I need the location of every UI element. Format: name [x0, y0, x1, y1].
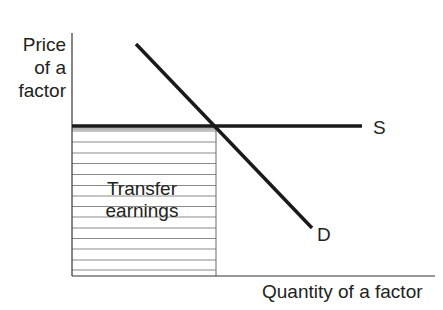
transfer-earnings-label-line: earnings — [82, 200, 202, 222]
transfer-earnings-label-line: Transfer — [82, 178, 202, 200]
transfer-earnings-label: Transfer earnings — [82, 178, 202, 222]
y-axis-label-line: factor — [0, 79, 66, 102]
y-axis-label-line: of a — [0, 56, 66, 79]
demand-label: D — [317, 223, 331, 246]
y-axis-label-line: Price — [0, 33, 66, 56]
supply-shadow-band — [72, 128, 216, 131]
y-axis-label: Price of a factor — [0, 33, 66, 102]
x-axis-label: Quantity of a factor — [262, 280, 423, 303]
diagram-canvas — [0, 0, 443, 310]
supply-label: S — [373, 116, 386, 139]
